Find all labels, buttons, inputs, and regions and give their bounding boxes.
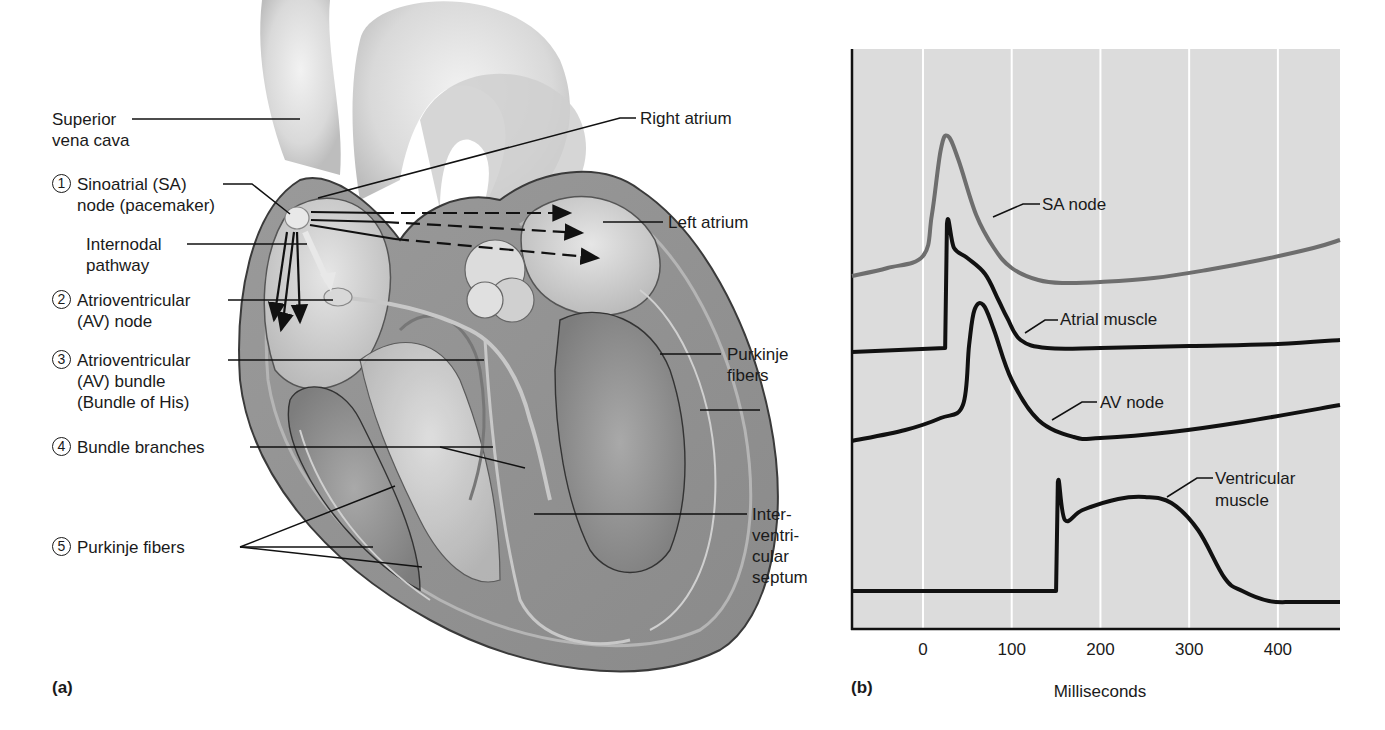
x-tick-label: 300 (1175, 640, 1203, 660)
label-line: fibers (727, 365, 788, 386)
label-line: Inter- (752, 504, 808, 525)
label-line: Atrioventricular (77, 290, 190, 311)
label-av-bundle: 3 Atrioventricular (AV) bundle (Bundle o… (52, 350, 190, 413)
label-left-atrium: Left atrium (668, 212, 748, 233)
label-line: Internodal (86, 234, 162, 255)
step-number-badge: 3 (52, 350, 71, 369)
label-line: ventri- (752, 525, 808, 546)
series-label-atrial-muscle: Atrial muscle (1060, 309, 1157, 330)
label-interventricular-septum: Inter- ventri- cular septum (752, 504, 808, 588)
action-potential-chart: 0100200300400 SA node Atrial muscle AV n… (845, 0, 1385, 730)
x-tick-label: 0 (918, 640, 927, 660)
label-sa-node: 1 Sinoatrial (SA) node (pacemaker) (52, 174, 215, 216)
label-line: septum (752, 567, 808, 588)
series-label-sa-node: SA node (1042, 194, 1106, 215)
label-bundle-branches: 4Bundle branches (52, 437, 205, 458)
label-line: vena cava (52, 130, 130, 151)
panel-a-tag: (a) (52, 678, 73, 698)
label-line: Bundle branches (77, 438, 205, 457)
label-purkinje-fibers-left: 5Purkinje fibers (52, 537, 185, 558)
series-label-ventricular-muscle: Ventricular muscle (1215, 468, 1325, 512)
label-internodal-pathway: Internodal pathway (86, 234, 162, 276)
sa-node-shape (285, 207, 309, 229)
chart-plot-area (845, 0, 1385, 730)
x-tick-label: 400 (1264, 640, 1292, 660)
x-tick-label: 200 (1086, 640, 1114, 660)
step-number-badge: 2 (52, 290, 71, 309)
label-line: Purkinje fibers (77, 538, 185, 557)
panel-b-tag: (b) (851, 678, 873, 698)
series-label-av-node: AV node (1100, 392, 1164, 413)
step-number-badge: 5 (52, 537, 71, 556)
label-line: cular (752, 546, 808, 567)
label-line: Superior (52, 109, 130, 130)
label-line: (AV) bundle (77, 371, 190, 392)
label-line: node (pacemaker) (77, 195, 215, 216)
label-superior-vena-cava: Superior vena cava (52, 109, 130, 151)
label-line: Atrioventricular (77, 350, 190, 371)
step-number-badge: 4 (52, 437, 71, 456)
label-line: pathway (86, 255, 162, 276)
heart-conduction-diagram: Superior vena cava 1 Sinoatrial (SA) nod… (0, 0, 845, 730)
label-line: (Bundle of His) (77, 392, 190, 413)
label-purkinje-fibers-right: Purkinje fibers (727, 344, 788, 386)
label-right-atrium: Right atrium (640, 108, 732, 129)
label-av-node: 2 Atrioventricular (AV) node (52, 290, 190, 332)
step-number-badge: 1 (52, 174, 71, 193)
superior-vena-cava-shape (260, 0, 341, 175)
av-node-shape (324, 288, 352, 306)
chart-background (852, 49, 1340, 629)
label-line: Sinoatrial (SA) (77, 174, 215, 195)
x-tick-label: 100 (998, 640, 1026, 660)
label-line: (AV) node (77, 311, 190, 332)
label-line: Purkinje (727, 344, 788, 365)
x-axis-label: Milliseconds (1054, 682, 1147, 702)
